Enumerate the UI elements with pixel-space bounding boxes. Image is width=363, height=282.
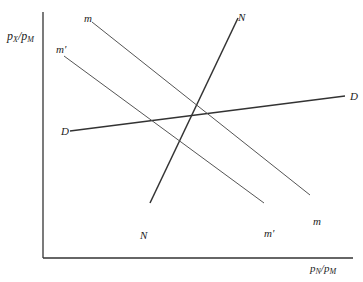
- label-D-left: D: [61, 126, 69, 137]
- curve-m: [92, 22, 310, 195]
- label-D-right: D: [350, 91, 358, 102]
- label-N-bottom: N: [140, 230, 147, 241]
- x-axis-label: pN/pM: [310, 263, 336, 276]
- y-label-den-sub: M: [27, 35, 34, 44]
- y-label-slash: /p: [18, 29, 27, 43]
- label-m-bottom: m: [313, 216, 321, 227]
- label-mprime-top: m': [56, 44, 66, 55]
- curve-m_prime: [64, 56, 264, 203]
- label-m-top: m: [84, 13, 92, 24]
- diagram-canvas: [0, 0, 363, 282]
- label-mprime-bottom: m': [264, 228, 274, 239]
- x-label-den-sub: M: [329, 267, 336, 276]
- curve-N: [150, 18, 238, 203]
- y-axis-label: pX/pM: [7, 30, 34, 44]
- label-N-top: N: [238, 12, 245, 23]
